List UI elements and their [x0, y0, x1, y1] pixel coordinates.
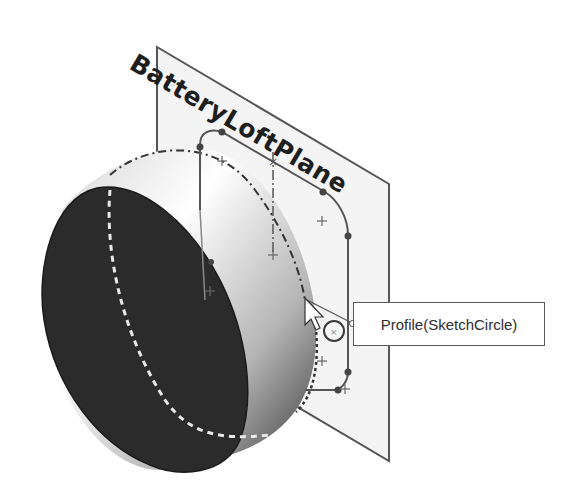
circle-select-icon: × — [324, 321, 344, 341]
selection-tooltip: Profile(SketchCircle) — [353, 302, 545, 346]
tooltip-label: Profile(SketchCircle) — [381, 316, 518, 333]
svg-text:×: × — [268, 155, 278, 169]
graphics-viewport[interactable]: BatteryLoftPlane — [0, 0, 573, 493]
svg-text:×: × — [330, 327, 338, 337]
